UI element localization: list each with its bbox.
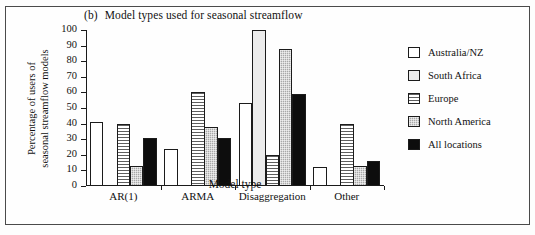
figure-panel-b: (b)Model types used for seasonal streamf… xyxy=(0,0,535,235)
y-tick-label: 50 xyxy=(67,101,78,112)
y-tick: 50 xyxy=(81,108,86,109)
legend-label: South Africa xyxy=(428,70,481,81)
legend-item: South Africa xyxy=(408,64,491,87)
y-tick-label: 90 xyxy=(67,39,78,50)
x-group-label-ar-1: AR(1) xyxy=(86,190,161,202)
y-tick-label: 30 xyxy=(67,132,78,143)
x-group-label-arma: ARMA xyxy=(161,190,236,202)
legend-label: North America xyxy=(428,116,491,127)
plot-area: 0102030405060708090100 AR(1)ARMADisaggre… xyxy=(86,30,384,186)
legend-swatch-icon xyxy=(408,139,420,150)
legend-label: All locations xyxy=(428,139,482,150)
legend-item: Australia/NZ xyxy=(408,41,491,64)
y-tick-label: 10 xyxy=(67,163,78,174)
x-group-separator xyxy=(384,186,385,190)
y-tick: 40 xyxy=(81,124,86,125)
bar xyxy=(292,94,306,186)
y-tick-label: 80 xyxy=(67,54,78,65)
y-tick: 70 xyxy=(81,77,86,78)
y-axis-line xyxy=(86,30,87,186)
y-tick: 10 xyxy=(81,170,86,171)
y-axis-title-line1: Percentage of users of xyxy=(26,25,39,193)
y-tick: 30 xyxy=(81,139,86,140)
y-tick-label: 20 xyxy=(67,148,78,159)
bar xyxy=(90,122,104,186)
x-group-label-disaggregation: Disaggregation xyxy=(235,190,310,202)
y-tick: 90 xyxy=(81,46,86,47)
bar xyxy=(279,49,293,186)
legend-swatch-icon xyxy=(408,93,420,104)
legend-label: Australia/NZ xyxy=(428,47,483,58)
legend-label: Europe xyxy=(428,93,458,104)
bar xyxy=(340,124,354,186)
y-tick-label: 0 xyxy=(72,179,77,190)
chart-title-text: Model types used for seasonal streamflow xyxy=(105,9,303,21)
legend-swatch-icon xyxy=(408,70,420,81)
chart-title: (b)Model types used for seasonal streamf… xyxy=(84,9,303,21)
y-tick: 20 xyxy=(81,155,86,156)
legend-item: All locations xyxy=(408,133,491,156)
y-tick: 80 xyxy=(81,61,86,62)
y-tick: 100 xyxy=(81,30,86,31)
x-axis-title: Model type xyxy=(86,178,384,190)
bar xyxy=(239,103,253,186)
y-tick-label: 40 xyxy=(67,117,78,128)
legend: Australia/NZSouth AfricaEuropeNorth Amer… xyxy=(408,41,491,156)
legend-item: North America xyxy=(408,110,491,133)
bar xyxy=(117,124,131,186)
panel-tag: (b) xyxy=(84,9,98,21)
bar xyxy=(252,30,266,186)
y-tick: 60 xyxy=(81,92,86,93)
bar xyxy=(191,92,205,186)
y-axis-title-line2: seasonal streamflow models xyxy=(38,25,51,193)
legend-item: Europe xyxy=(408,87,491,110)
x-group-label-other: Other xyxy=(310,190,385,202)
y-tick-label: 60 xyxy=(67,85,78,96)
y-tick-label: 70 xyxy=(67,70,78,81)
legend-swatch-icon xyxy=(408,116,420,127)
legend-swatch-icon xyxy=(408,47,420,58)
y-axis-title: Percentage of users of seasonal streamfl… xyxy=(26,25,51,193)
y-tick-label: 100 xyxy=(61,23,77,34)
